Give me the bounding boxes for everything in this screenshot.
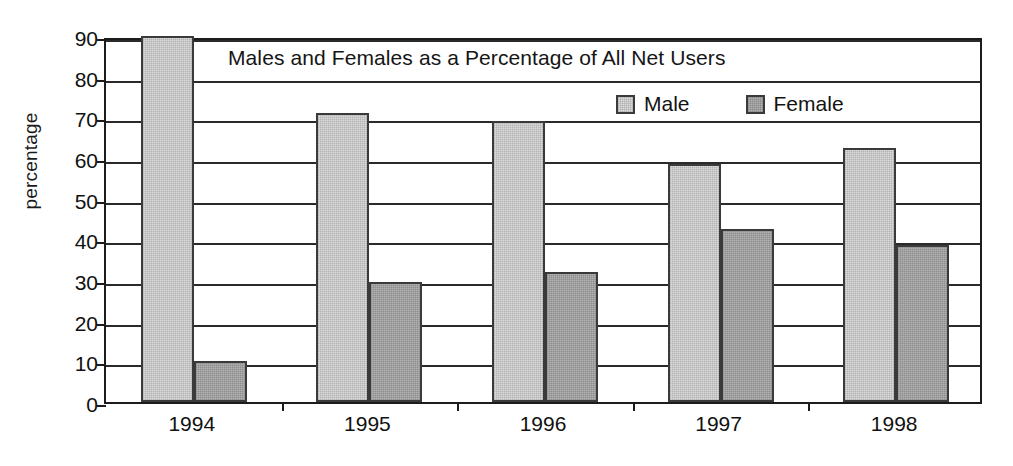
chart-figure: percentage 0102030405060708090 Males and… xyxy=(0,0,1013,466)
bar-male-1995[interactable] xyxy=(316,113,369,402)
y-tick-label-30: 30 xyxy=(52,272,98,293)
bar-male-1994[interactable] xyxy=(141,36,194,402)
y-tick-mark-0 xyxy=(97,405,106,407)
x-axis-tick-labels: 19941995199619971998 xyxy=(104,412,982,452)
x-tick-label-1994: 1994 xyxy=(168,412,215,436)
x-tick-mark-2 xyxy=(457,402,459,411)
legend-item-female[interactable]: Female xyxy=(746,92,844,116)
y-tick-label-40: 40 xyxy=(52,231,98,252)
bar-female-1996[interactable] xyxy=(545,272,598,402)
x-tick-mark-4 xyxy=(808,402,810,411)
chart-legend: Male Female xyxy=(616,92,844,116)
x-tick-label-1998: 1998 xyxy=(871,412,918,436)
plot-area: Males and Females as a Percentage of All… xyxy=(104,38,982,404)
bar-female-1998[interactable] xyxy=(896,245,949,402)
legend-label-female: Female xyxy=(774,92,844,116)
y-tick-mark-80 xyxy=(97,80,106,82)
y-tick-mark-40 xyxy=(97,242,106,244)
bar-male-1996[interactable] xyxy=(492,121,545,402)
bar-female-1995[interactable] xyxy=(369,282,422,402)
y-axis-tick-labels: 0102030405060708090 xyxy=(38,0,98,466)
y-tick-label-70: 70 xyxy=(52,109,98,130)
legend-swatch-female-icon xyxy=(746,95,765,114)
y-tick-label-50: 50 xyxy=(52,190,98,211)
y-tick-label-80: 80 xyxy=(52,68,98,89)
x-tick-label-1995: 1995 xyxy=(344,412,391,436)
legend-item-male[interactable]: Male xyxy=(616,92,690,116)
legend-label-male: Male xyxy=(644,92,690,116)
y-tick-label-90: 90 xyxy=(52,28,98,49)
chart-title: Males and Females as a Percentage of All… xyxy=(228,46,726,70)
bar-male-1997[interactable] xyxy=(668,164,721,402)
bar-female-1997[interactable] xyxy=(721,229,774,402)
y-tick-mark-50 xyxy=(97,202,106,204)
y-tick-label-0: 0 xyxy=(52,394,98,415)
y-tick-mark-10 xyxy=(97,364,106,366)
gridline-90 xyxy=(106,40,980,42)
bar-female-1994[interactable] xyxy=(194,361,247,402)
y-tick-mark-30 xyxy=(97,283,106,285)
gridline-80 xyxy=(106,81,980,83)
y-tick-mark-70 xyxy=(97,120,106,122)
y-tick-mark-20 xyxy=(97,324,106,326)
y-tick-label-10: 10 xyxy=(52,353,98,374)
y-tick-mark-60 xyxy=(97,161,106,163)
y-tick-label-60: 60 xyxy=(52,150,98,171)
x-tick-mark-3 xyxy=(633,402,635,411)
x-tick-label-1997: 1997 xyxy=(695,412,742,436)
x-tick-label-1996: 1996 xyxy=(520,412,567,436)
y-tick-mark-90 xyxy=(97,39,106,41)
y-tick-label-20: 20 xyxy=(52,312,98,333)
bar-male-1998[interactable] xyxy=(843,148,896,402)
legend-swatch-male-icon xyxy=(616,95,635,114)
x-tick-mark-1 xyxy=(282,402,284,411)
